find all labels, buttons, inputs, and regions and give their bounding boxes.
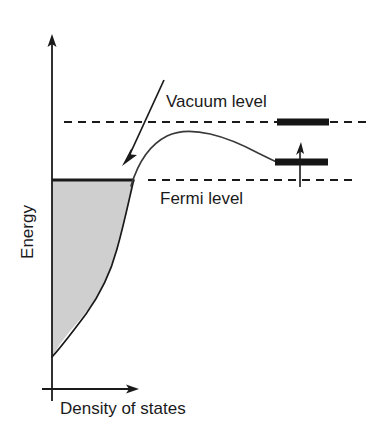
energy-band-diagram-canvas: Density of states Energy Vacuum level Fe…: [0, 0, 371, 434]
vacuum-level-label: Vacuum level: [166, 92, 267, 111]
incident-photon-ray: [130, 80, 164, 154]
occupied-states-fill: [52, 180, 134, 357]
incident-photon-arrowhead-icon: [122, 148, 137, 166]
x-axis-label: Density of states: [60, 399, 186, 418]
adsorbate-level-lower-bar: [275, 159, 328, 166]
fermi-level-label: Fermi level: [160, 189, 243, 208]
adsorbate-level-upper-bar: [277, 119, 329, 126]
image-potential-barrier-curve: [131, 131, 279, 186]
y-axis-label: Energy: [18, 205, 37, 259]
energy-diagram-figure: Density of states Energy Vacuum level Fe…: [0, 0, 371, 434]
